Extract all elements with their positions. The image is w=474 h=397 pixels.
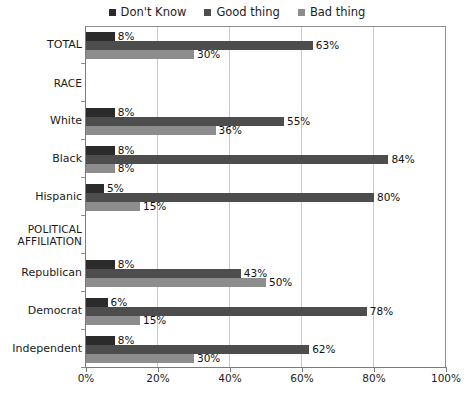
y-tick-mark [81,215,85,216]
x-tick-label: 80% [362,372,385,384]
section-label: RACE [0,77,82,90]
legend-swatch-icon [204,9,211,16]
bar-dont-know [86,336,115,345]
chart-legend: Don't KnowGood thingBad thing [0,6,474,18]
y-tick-mark [81,253,85,254]
legend-swatch-icon [109,9,116,16]
legend-label: Don't Know [121,6,187,18]
bar-bad-thing [86,278,266,287]
bar-bad-thing [86,354,194,363]
section-label: POLITICAL AFFILIATION [0,223,82,248]
bar-value-label: 15% [140,315,166,326]
y-tick-mark [81,291,85,292]
bar-value-label: 55% [284,116,310,127]
legend-item: Good thing [204,6,280,18]
bar-dont-know [86,108,115,117]
bar-bad-thing [86,316,140,325]
bar-bad-thing [86,164,115,173]
bar-bad-thing [86,126,216,135]
bar-dont-know [86,260,115,269]
bar-chart: Don't KnowGood thingBad thing TOTAL8%63%… [0,0,474,397]
category-label: Independent [0,343,82,356]
bar-value-label: 50% [266,277,292,288]
bar-dont-know [86,298,108,307]
x-tick-label: 60% [290,372,313,384]
legend-swatch-icon [298,9,305,16]
bar-bad-thing [86,50,194,59]
legend-item: Bad thing [298,6,365,18]
bar-value-label: 15% [140,201,166,212]
bar-value-label: 63% [313,40,339,51]
legend-label: Bad thing [310,6,365,18]
y-tick-mark [81,329,85,330]
bar-value-label: 78% [367,306,393,317]
x-tick-label: 40% [218,372,241,384]
y-tick-mark [81,139,85,140]
legend-label: Good thing [216,6,280,18]
x-tick-label: 20% [146,372,169,384]
bar-value-label: 30% [194,49,220,60]
legend-item: Don't Know [109,6,187,18]
category-label: White [0,115,82,128]
x-tick-label: 0% [78,372,95,384]
bar-value-label: 30% [194,353,220,364]
bar-dont-know [86,146,115,155]
bar-good-thing [86,307,367,316]
category-label: Republican [0,267,82,280]
y-tick-mark [81,63,85,64]
y-tick-mark [81,367,85,368]
bar-good-thing [86,269,241,278]
bar-value-label: 84% [388,154,414,165]
x-axis-line [85,367,447,368]
category-label: Democrat [0,305,82,318]
bar-good-thing [86,193,374,202]
category-label: Black [0,153,82,166]
bar-bad-thing [86,202,140,211]
bar-value-label: 8% [115,163,135,174]
bar-dont-know [86,32,115,41]
bar-value-label: 36% [216,125,242,136]
bar-value-label: 62% [309,344,335,355]
bar-dont-know [86,184,104,193]
y-tick-mark [81,177,85,178]
category-label: Hispanic [0,191,82,204]
bar-value-label: 80% [374,192,400,203]
category-label: TOTAL [0,39,82,52]
bar-good-thing [86,117,284,126]
y-tick-mark [81,101,85,102]
x-tick-label: 100% [431,372,461,384]
